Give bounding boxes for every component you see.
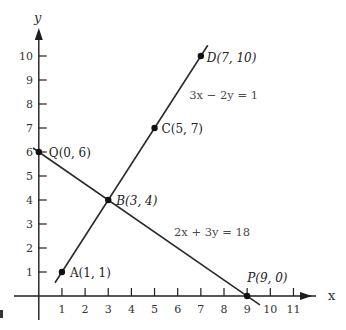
point-label-d: D(7, 10) [206, 51, 257, 65]
point-label-a: A(1, 1) [69, 266, 111, 280]
point-p [244, 293, 250, 299]
point-q [36, 149, 42, 155]
x-tick-label: 4 [128, 303, 135, 316]
y-tick-label: 7 [26, 122, 33, 135]
y-tick-label: 10 [19, 50, 33, 63]
point-label-p: P(9, 0) [246, 271, 288, 285]
x-tick-label: 9 [244, 303, 251, 316]
y-tick-label: 9 [26, 74, 33, 87]
labels: xy1234567891011123456789103x − 2y = 12x … [19, 10, 336, 316]
x-tick-label: 2 [82, 303, 89, 316]
point-c [151, 125, 157, 131]
y-tick-label: 5 [26, 170, 33, 183]
lines [33, 45, 260, 305]
x-tick-label: 8 [221, 303, 228, 316]
y-tick-label: 3 [26, 218, 33, 231]
equation-label: 3x − 2y = 1 [189, 88, 258, 102]
y-tick-label: 4 [26, 194, 33, 207]
y-tick-label: 2 [26, 242, 33, 255]
point-label-b: B(3, 4) [115, 194, 157, 208]
x-axis-label: x [328, 288, 336, 303]
point-d [198, 53, 204, 59]
point-label-q: Q(0, 6) [49, 146, 91, 160]
point-a [59, 269, 65, 275]
x-tick-label: 11 [286, 303, 300, 316]
x-tick-label: 3 [105, 303, 112, 316]
x-tick-label: 1 [58, 303, 65, 316]
y-tick-label: 6 [26, 146, 33, 159]
y-tick-label: 1 [26, 266, 33, 279]
x-tick-label: 5 [151, 303, 158, 316]
point-b [105, 197, 111, 203]
x-tick-label: 6 [174, 303, 181, 316]
point-label-c: C(5, 7) [162, 122, 203, 136]
x-tick-label: 7 [197, 303, 204, 316]
x-tick-label: 10 [263, 303, 277, 316]
x-axis-arrow-icon [300, 292, 312, 300]
y-axis-arrow-icon [35, 28, 43, 40]
cropped-edge-mark [0, 310, 3, 318]
y-tick-label: 8 [26, 98, 33, 111]
coordinate-plane: xy1234567891011123456789103x − 2y = 12x … [0, 0, 346, 330]
equation-label: 2x + 3y = 18 [174, 225, 250, 239]
line-1 [55, 45, 208, 283]
y-axis-label: y [33, 10, 42, 25]
